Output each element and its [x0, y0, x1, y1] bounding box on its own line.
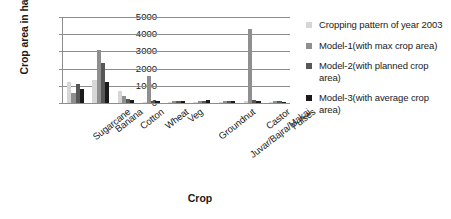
x-axis-title: Crop — [140, 192, 260, 204]
x-tick-label: Veg — [185, 106, 204, 124]
legend-item[interactable]: Model-2(with planned crop area) — [306, 60, 451, 83]
bar — [155, 101, 159, 103]
bar — [248, 29, 252, 103]
legend-item[interactable]: Model-1(with max crop area) — [306, 40, 451, 52]
bar — [231, 101, 235, 103]
bar-group — [164, 17, 189, 103]
y-tick-mark — [59, 34, 63, 35]
bar — [130, 100, 134, 103]
y-tick-mark — [59, 17, 63, 18]
legend-label: Model-2(with planned crop area) — [319, 60, 451, 83]
legend-swatch-icon — [306, 22, 312, 28]
legend-item[interactable]: Model-3(with average crop area) — [306, 92, 451, 115]
y-tick-mark — [59, 86, 63, 87]
bar-group — [113, 17, 138, 103]
bar-group — [240, 17, 265, 103]
plot-area — [62, 17, 290, 103]
legend-swatch-icon — [306, 43, 312, 49]
legend-label: Model-1(with max crop area) — [319, 40, 437, 52]
bar-groups — [63, 17, 290, 103]
bar — [256, 101, 260, 103]
bar — [282, 102, 286, 103]
chart-legend: Cropping pattern of year 2003Model-1(wit… — [306, 19, 451, 124]
bar-group — [214, 17, 239, 103]
bar-group — [189, 17, 214, 103]
bar — [206, 100, 210, 103]
bar-group — [88, 17, 113, 103]
legend-item[interactable]: Cropping pattern of year 2003 — [306, 19, 451, 31]
chart-container: Crop area in ha 010002000300040005000 Su… — [0, 0, 451, 219]
bar — [105, 82, 109, 103]
bar-group — [63, 17, 88, 103]
legend-label: Model-3(with average crop area) — [319, 92, 451, 115]
bar-group — [265, 17, 290, 103]
legend-label: Cropping pattern of year 2003 — [319, 19, 442, 31]
x-tick-label: Wheat — [162, 106, 190, 131]
y-tick-mark — [59, 51, 63, 52]
x-tick-label: Groundnut — [216, 106, 257, 141]
bar — [147, 76, 151, 103]
bar — [80, 89, 84, 103]
legend-swatch-icon — [306, 63, 312, 69]
bar-group — [139, 17, 164, 103]
legend-swatch-icon — [306, 95, 312, 101]
x-axis-tick-labels: SugarcaneBananaCottonWheatVegGroundnutJu… — [62, 104, 290, 105]
y-tick-mark — [59, 69, 63, 70]
bar — [181, 101, 185, 103]
